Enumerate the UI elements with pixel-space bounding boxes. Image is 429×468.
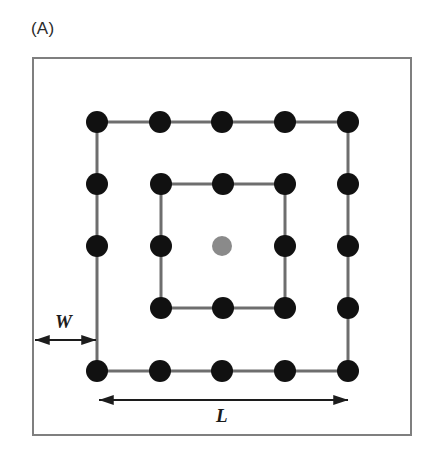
- node-outer-bottom-4: [274, 360, 296, 382]
- node-inner-bottom-mid: [212, 297, 234, 319]
- gray-node-group: [212, 236, 232, 256]
- node-outer-bottom-right: [337, 360, 359, 382]
- node-outer-top-4: [274, 111, 296, 133]
- figure-panel-a: (A) W L: [0, 0, 429, 468]
- node-inner-top-mid: [212, 173, 234, 195]
- node-outer-top-left: [86, 111, 108, 133]
- node-inner-bottom-right: [274, 297, 296, 319]
- dimension-label-l: L: [216, 406, 228, 425]
- node-inner-bottom-left: [150, 297, 172, 319]
- node-outer-right-2: [337, 173, 359, 195]
- node-outer-right-3: [337, 235, 359, 257]
- node-center-gray: [212, 236, 232, 256]
- node-outer-bottom-2: [149, 360, 171, 382]
- lattice-schematic-svg: [0, 0, 429, 468]
- node-outer-top-3: [211, 111, 233, 133]
- node-outer-bottom-left: [86, 360, 108, 382]
- node-outer-top-2: [149, 111, 171, 133]
- node-outer-bottom-3: [211, 360, 233, 382]
- node-inner-top-right: [274, 173, 296, 195]
- node-outer-top-right: [337, 111, 359, 133]
- dimension-label-w: W: [55, 312, 72, 331]
- node-inner-top-left: [150, 173, 172, 195]
- node-outer-left-3: [86, 235, 108, 257]
- node-inner-right-mid: [274, 235, 296, 257]
- node-outer-left-2: [86, 173, 108, 195]
- node-inner-left-mid: [150, 235, 172, 257]
- node-outer-right-4: [337, 297, 359, 319]
